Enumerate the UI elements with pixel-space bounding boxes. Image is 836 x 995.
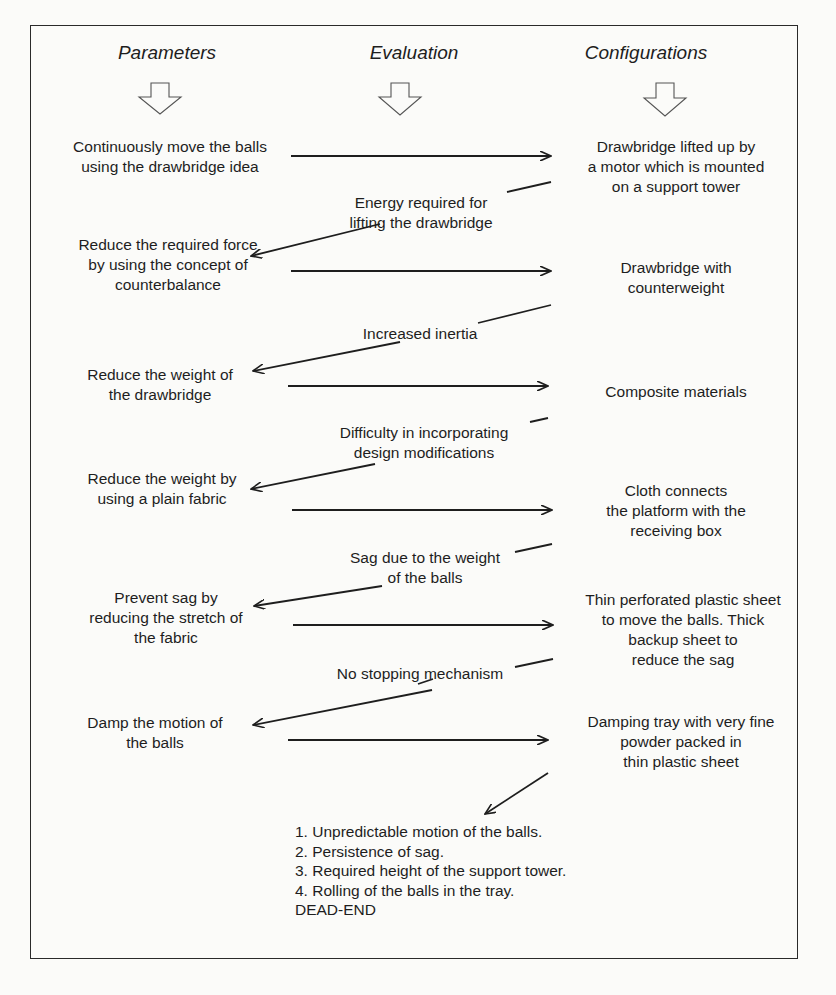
configuration-3-line-1: Composite materials (571, 382, 781, 402)
configuration-5-line-2: to move the balls. Thick (566, 610, 800, 630)
parameter-6-line-1: Damp the motion of (60, 713, 250, 733)
parameter-2-line-2: by using the concept of (48, 255, 288, 275)
parameter-5-line-3: the fabric (48, 628, 284, 648)
evaluation-1: Energy required for lifting the drawbrid… (335, 193, 507, 233)
configuration-1-line-3: on a support tower (571, 177, 781, 197)
configuration-1-line-2: a motor which is mounted (571, 157, 781, 177)
down-arrow-icon (139, 83, 181, 114)
configuration-5: Thin perforated plastic sheet to move th… (566, 590, 800, 670)
parameter-4-line-2: using a plain fabric (50, 489, 274, 509)
evaluation-5-line-1: No stopping mechanism (320, 664, 520, 684)
configuration-1-line-1: Drawbridge lifted up by (571, 137, 781, 157)
parameter-6: Damp the motion of the balls (60, 713, 250, 753)
parameter-5: Prevent sag by reducing the stretch of t… (48, 588, 284, 648)
evaluation-2: Increased inertia (340, 324, 500, 344)
configuration-4: Cloth connects the platform with the rec… (571, 481, 781, 541)
configuration-6: Damping tray with very fine powder packe… (566, 712, 796, 772)
configuration-2-line-1: Drawbridge with (571, 258, 781, 278)
dead-end-item-2: 2. Persistence of sag. (295, 842, 566, 862)
configuration-6-line-2: powder packed in (566, 732, 796, 752)
parameter-1: Continuously move the balls using the dr… (48, 137, 292, 177)
evaluation-3-line-1: Difficulty in incorporating (318, 423, 530, 443)
configuration-2-line-2: counterweight (571, 278, 781, 298)
dead-end-item-4: 4. Rolling of the balls in the tray. (295, 881, 566, 901)
configuration-4-line-2: the platform with the (571, 501, 781, 521)
evaluation-2-line-1: Increased inertia (340, 324, 500, 344)
configuration-4-line-3: receiving box (571, 521, 781, 541)
configuration-5-line-4: reduce the sag (566, 650, 800, 670)
dead-end-item-1: 1. Unpredictable motion of the balls. (295, 822, 566, 842)
configuration-2: Drawbridge with counterweight (571, 258, 781, 298)
dead-end-list: 1. Unpredictable motion of the balls. 2.… (295, 822, 566, 920)
evaluation-1-line-1: Energy required for (335, 193, 507, 213)
parameter-6-line-2: the balls (60, 733, 250, 753)
configuration-3: Composite materials (571, 382, 781, 402)
configuration-5-line-1: Thin perforated plastic sheet (566, 590, 800, 610)
configuration-1: Drawbridge lifted up by a motor which is… (571, 137, 781, 197)
evaluation-3-line-2: design modifications (318, 443, 530, 463)
parameter-3-line-1: Reduce the weight of (50, 365, 270, 385)
parameter-3: Reduce the weight of the drawbridge (50, 365, 270, 405)
evaluation-1-line-2: lifting the drawbridge (335, 213, 507, 233)
parameter-2-line-3: counterbalance (48, 275, 288, 295)
parameter-2: Reduce the required force by using the c… (48, 235, 288, 295)
down-arrow-icon (644, 83, 686, 116)
configuration-5-line-3: backup sheet to (566, 630, 800, 650)
evaluation-4-line-1: Sag due to the weight (330, 548, 520, 568)
dead-end-item-3: 3. Required height of the support tower. (295, 861, 566, 881)
parameter-4: Reduce the weight by using a plain fabri… (50, 469, 274, 509)
parameter-1-line-1: Continuously move the balls (48, 137, 292, 157)
configuration-6-line-3: thin plastic sheet (566, 752, 796, 772)
parameter-5-line-1: Prevent sag by (48, 588, 284, 608)
parameter-5-line-2: reducing the stretch of (48, 608, 284, 628)
parameter-1-line-2: using the drawbridge idea (48, 157, 292, 177)
dead-end-conclusion: DEAD-END (295, 900, 566, 920)
evaluation-3: Difficulty in incorporating design modif… (318, 423, 530, 463)
parameter-4-line-1: Reduce the weight by (50, 469, 274, 489)
evaluation-4: Sag due to the weight of the balls (330, 548, 520, 588)
down-arrow-icon (379, 83, 421, 115)
evaluation-5: No stopping mechanism (320, 664, 520, 684)
parameter-2-line-1: Reduce the required force (48, 235, 288, 255)
parameter-3-line-2: the drawbridge (50, 385, 270, 405)
evaluation-4-line-2: of the balls (330, 568, 520, 588)
configuration-4-line-1: Cloth connects (571, 481, 781, 501)
configuration-6-line-1: Damping tray with very fine (566, 712, 796, 732)
